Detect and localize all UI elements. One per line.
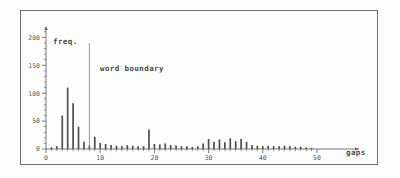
histogram-bar [164, 143, 166, 149]
histogram-bar [148, 129, 150, 149]
histogram-bar [289, 146, 291, 149]
histogram-bar [246, 142, 248, 149]
histogram-bar [186, 146, 188, 149]
histogram-bar [154, 144, 156, 149]
histogram-bar [126, 145, 128, 149]
histogram-bar [267, 146, 269, 149]
x-tick-label: 20 [150, 154, 158, 162]
x-tick-label: 40 [259, 154, 267, 162]
histogram-bar [105, 144, 107, 149]
x-tick-label: 10 [96, 154, 104, 162]
x-tick-label: 30 [205, 154, 213, 162]
histogram-bar [305, 147, 307, 149]
bars [51, 88, 313, 149]
histogram-bar [251, 145, 253, 149]
histogram-bar [257, 146, 259, 149]
histogram-bar [208, 139, 210, 149]
histogram-bar [224, 142, 226, 149]
histogram-bar [51, 147, 53, 149]
histogram-bar [175, 146, 177, 149]
histogram-bar [202, 143, 204, 149]
histogram-bar [235, 141, 237, 149]
histogram-bar [61, 116, 63, 149]
histogram-bar [213, 142, 215, 149]
histogram-bar [137, 146, 139, 149]
x-tick-label: 50 [313, 154, 321, 162]
histogram-bar [143, 146, 145, 149]
histogram-bar [262, 146, 264, 149]
y-tick-label: 100 [28, 90, 40, 98]
histogram-bar [116, 146, 118, 149]
x-axis: 01020304050 [44, 147, 359, 162]
histogram-bar [219, 140, 221, 149]
histogram-bar [311, 148, 313, 149]
histogram-bar [229, 138, 231, 149]
y-tick-label: 50 [32, 117, 40, 125]
histogram-bar [99, 143, 101, 149]
histogram-bar [121, 146, 123, 149]
histogram-bar [94, 137, 96, 149]
x-axis-label: gaps [346, 148, 366, 157]
x-tick-label: 0 [44, 154, 48, 162]
histogram-bar [181, 146, 183, 149]
histogram-bar [78, 127, 80, 149]
histogram-svg: 01020304050 050100150200 [21, 11, 379, 166]
histogram-bar [284, 146, 286, 149]
histogram-bar [170, 145, 172, 149]
y-axis: 050100150200 [28, 26, 48, 153]
histogram-bar [273, 146, 275, 149]
word-boundary-annotation-label: word boundary [100, 64, 164, 73]
histogram-bar [132, 146, 134, 149]
histogram-bar [278, 146, 280, 149]
histogram-bar [72, 103, 74, 149]
histogram-bar [294, 147, 296, 149]
y-tick-label: 150 [28, 62, 40, 70]
histogram-bar [67, 88, 69, 149]
histogram-bar [240, 139, 242, 149]
histogram-bar [191, 147, 193, 149]
chart-figure: 01020304050 050100150200 freq. gaps word… [0, 0, 400, 178]
figure-frame: 01020304050 050100150200 freq. gaps word… [20, 10, 378, 165]
y-tick-label: 0 [36, 145, 40, 153]
plot-area: 01020304050 050100150200 [21, 11, 379, 166]
histogram-bar [300, 147, 302, 149]
histogram-bar [110, 145, 112, 149]
y-tick-label: 200 [28, 34, 40, 42]
histogram-bar [83, 142, 85, 149]
y-axis-label: freq. [53, 37, 78, 46]
histogram-bar [56, 146, 58, 149]
histogram-bar [159, 145, 161, 149]
histogram-bar [197, 146, 199, 149]
